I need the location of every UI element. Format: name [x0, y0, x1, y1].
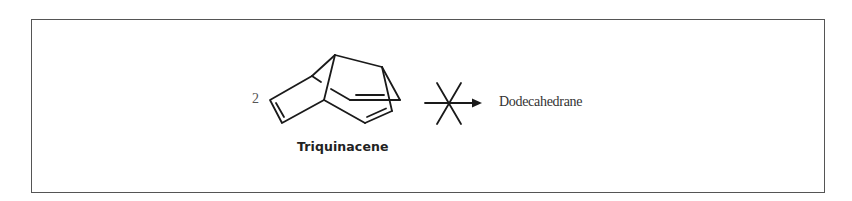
back-bond-rear-segment: [331, 89, 350, 100]
triquinacene-structure: [270, 55, 400, 123]
reaction-scheme: [0, 0, 852, 201]
back-bond-front-segment: [312, 76, 321, 82]
product-name: Dodecahedrane: [499, 94, 582, 110]
arrow-head-icon: [472, 99, 482, 108]
stoichiometric-coefficient: 2: [252, 91, 259, 107]
bond-upper-right-lower: [382, 67, 392, 111]
bond-apex-center: [324, 55, 335, 100]
bond-apex-upper-right: [335, 55, 382, 67]
reactant-name: Triquinacene: [297, 139, 389, 154]
crossed-reaction-arrow: [425, 83, 482, 124]
bond-center-bottom: [324, 100, 365, 123]
left-ring-bonds: [270, 76, 324, 123]
